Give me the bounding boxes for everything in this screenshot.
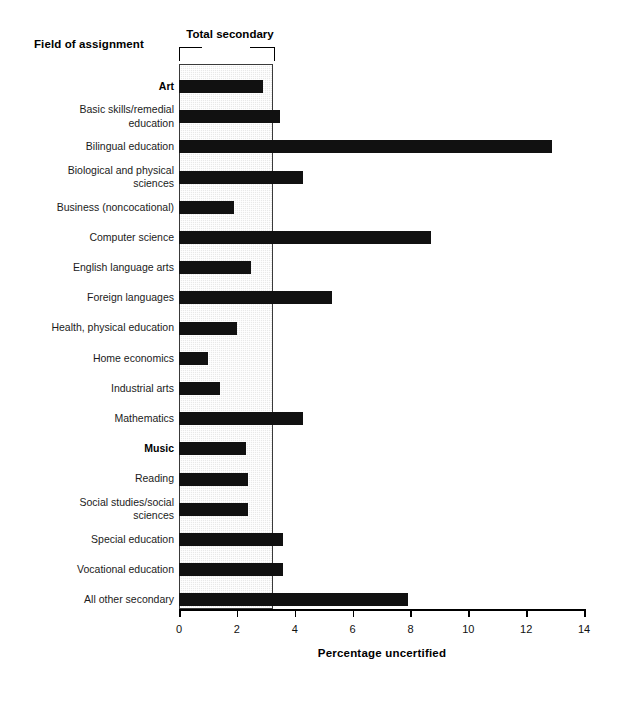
x-tick-label: 0 (159, 623, 199, 635)
category-label: Basic skills/remedial education (19, 103, 174, 130)
x-tick-label: 6 (333, 623, 373, 635)
bar (179, 140, 552, 153)
category-label: Special education (19, 533, 174, 547)
chart-figure: Field of assignment Total secondary ArtB… (0, 0, 629, 716)
x-axis-line (179, 609, 585, 611)
bar (179, 110, 280, 123)
bar (179, 261, 251, 274)
x-tick (468, 609, 470, 617)
x-tick (353, 609, 355, 617)
bar (179, 291, 332, 304)
bar (179, 352, 208, 365)
x-axis-title: Percentage uncertified (179, 647, 585, 659)
x-tick (295, 609, 297, 617)
category-label: Social studies/social sciences (19, 496, 174, 523)
category-label: English language arts (19, 261, 174, 275)
bar (179, 533, 283, 546)
x-tick-label: 14 (564, 623, 604, 635)
x-tick (584, 609, 586, 617)
bar (179, 442, 246, 455)
x-tick (237, 609, 239, 617)
category-label: Computer science (19, 231, 174, 245)
total-secondary-bracket-gap (202, 45, 250, 50)
x-tick (526, 609, 528, 617)
category-label: Vocational education (19, 563, 174, 577)
category-label: Foreign languages (19, 291, 174, 305)
bar (179, 473, 248, 486)
category-label: Health, physical education (19, 321, 174, 335)
bar (179, 412, 303, 425)
bar (179, 503, 248, 516)
bar (179, 171, 303, 184)
category-label: Mathematics (19, 412, 174, 426)
category-label: All other secondary (19, 593, 174, 607)
category-label-column: ArtBasic skills/remedial educationBiling… (14, 0, 174, 716)
bar (179, 563, 283, 576)
bar (179, 322, 237, 335)
category-label: Biological and physical sciences (19, 164, 174, 191)
category-label: Industrial arts (19, 382, 174, 396)
x-tick-label: 2 (217, 623, 257, 635)
total-secondary-label: Total secondary (178, 28, 282, 40)
category-label: Bilingual education (19, 140, 174, 154)
plot-area (179, 64, 584, 609)
x-tick-label: 12 (506, 623, 546, 635)
category-label: Music (19, 442, 174, 456)
bar (179, 80, 263, 93)
x-tick-label: 8 (390, 623, 430, 635)
bar (179, 231, 431, 244)
category-label: Home economics (19, 352, 174, 366)
category-label: Reading (19, 472, 174, 486)
category-label: Business (noncocational) (19, 201, 174, 215)
x-tick-label: 10 (448, 623, 488, 635)
x-tick (410, 609, 412, 617)
category-label: Art (19, 80, 174, 94)
bar (179, 201, 234, 214)
x-tick (179, 609, 181, 617)
bar (179, 593, 408, 606)
bar (179, 382, 220, 395)
x-tick-label: 4 (275, 623, 315, 635)
